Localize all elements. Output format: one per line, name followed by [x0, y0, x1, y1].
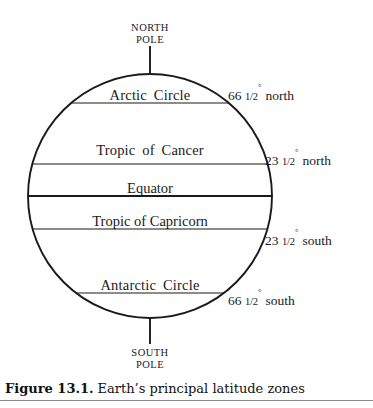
latitude-direction: south — [302, 233, 331, 248]
latitude-fraction: 1/2 — [245, 91, 258, 102]
degree-symbol-icon: ° — [295, 147, 298, 157]
latitude-degrees: 66 — [228, 88, 242, 103]
latitude-direction: south — [265, 293, 294, 308]
north-pole-label-line1: NORTH — [0, 22, 337, 34]
latitude-fraction: 1/2 — [282, 156, 295, 167]
zone-label-equator: Equator — [0, 181, 337, 196]
figure-caption: Figure 13.1.Earth’s principal latitude z… — [5, 381, 305, 396]
figure-container: NORTH POLE SOUTH POLE Arctic Circle Trop… — [0, 0, 373, 408]
latitude-degrees: 66 — [228, 293, 242, 308]
degree-symbol-icon: ° — [295, 227, 298, 237]
latitude-fraction: 1/2 — [245, 296, 258, 307]
north-pole-label-line2: POLE — [0, 34, 337, 46]
degree-symbol-icon: ° — [258, 82, 261, 92]
zone-label-antarctic-circle: Antarctic Circle — [0, 278, 337, 293]
north-pole-label: NORTH POLE — [0, 22, 337, 45]
figure-caption-body: Earth’s principal latitude zones — [98, 381, 305, 396]
zone-label-tropic-of-capricorn: Tropic of Capricorn — [0, 214, 337, 229]
south-pole-label-line2: POLE — [0, 359, 337, 371]
south-pole-label: SOUTH POLE — [0, 347, 337, 370]
latitude-callout-tropic-of-cancer: 23 1/2°north — [265, 152, 331, 167]
degree-symbol-icon: ° — [258, 287, 261, 297]
latitude-degrees: 23 — [265, 233, 279, 248]
latitude-callout-antarctic-circle: 66 1/2°south — [228, 292, 295, 307]
latitude-callout-arctic-circle: 66 1/2°north — [228, 87, 294, 102]
latitude-direction: north — [302, 153, 331, 168]
latitude-degrees: 23 — [265, 153, 279, 168]
caption-divider — [0, 400, 373, 401]
latitude-fraction: 1/2 — [282, 236, 295, 247]
latitude-direction: north — [265, 88, 294, 103]
latitude-callout-tropic-of-capricorn: 23 1/2°south — [265, 232, 332, 247]
figure-caption-number: Figure 13.1. — [5, 381, 94, 396]
south-pole-label-line1: SOUTH — [0, 347, 337, 359]
